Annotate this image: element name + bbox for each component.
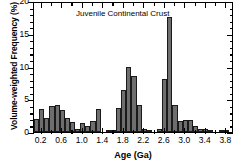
y-tick-minor: [30, 15, 34, 16]
y-tick-label: 0: [7, 127, 29, 137]
x-tick-major-top: [164, 2, 165, 8]
y-tick-minor: [30, 74, 34, 75]
x-tick-minor-top: [51, 2, 52, 6]
y-tick-minor-right: [230, 113, 234, 114]
bar-series: [34, 3, 232, 132]
x-tick-minor: [154, 130, 155, 134]
x-tick-minor: [92, 130, 93, 134]
x-tick-minor-top: [71, 2, 72, 6]
x-tick-major-top: [82, 2, 83, 8]
y-tick-minor-right: [230, 107, 234, 108]
x-tick-minor: [112, 130, 113, 134]
y-tick-minor-right: [230, 54, 234, 55]
y-tick-minor-right: [230, 74, 234, 75]
y-tick-minor: [30, 120, 34, 121]
y-tick-label: 5: [7, 94, 29, 104]
y-tick-minor: [30, 48, 34, 49]
x-tick-minor: [215, 130, 216, 134]
x-tick-minor: [51, 130, 52, 134]
chart-figure: Volume-weighted Frequency (%) Juvenile C…: [0, 0, 239, 168]
y-tick-minor: [30, 61, 34, 62]
plot-area: Juvenile Continental Crust: [33, 2, 233, 133]
y-tick-minor-right: [230, 126, 234, 127]
x-tick-major-top: [41, 2, 42, 8]
chart-title: Juvenile Continental Crust: [76, 9, 169, 18]
x-tick-major-top: [205, 2, 206, 8]
y-tick-minor-right: [230, 94, 234, 95]
y-tick-major-right: [227, 35, 233, 36]
x-axis-title: Age (Ga): [33, 150, 233, 160]
histogram-bar: [96, 109, 101, 132]
x-tick-minor: [195, 130, 196, 134]
x-tick-minor-top: [133, 2, 134, 6]
y-tick-major-right: [227, 68, 233, 69]
y-tick-minor: [30, 41, 34, 42]
y-tick-minor: [30, 113, 34, 114]
x-tick-major: [123, 128, 124, 134]
y-tick-minor-right: [230, 15, 234, 16]
y-tick-label: 15: [7, 29, 29, 39]
x-tick-major: [225, 128, 226, 134]
x-tick-minor-top: [174, 2, 175, 6]
x-tick-major: [143, 128, 144, 134]
y-tick-minor-right: [230, 41, 234, 42]
y-tick-major-right: [227, 133, 233, 134]
x-tick-major-top: [143, 2, 144, 8]
y-tick-label: 10: [7, 62, 29, 72]
x-tick-major: [205, 128, 206, 134]
x-tick-major: [61, 128, 62, 134]
x-tick-major: [41, 128, 42, 134]
x-tick-major: [164, 128, 165, 134]
y-tick-minor: [30, 107, 34, 108]
y-tick-minor-right: [230, 87, 234, 88]
y-tick-minor: [30, 9, 34, 10]
y-tick-minor-right: [230, 120, 234, 121]
y-tick-minor: [30, 126, 34, 127]
x-tick-minor: [133, 130, 134, 134]
x-tick-major-top: [61, 2, 62, 8]
y-tick-minor: [30, 81, 34, 82]
y-tick-minor: [30, 87, 34, 88]
x-tick-major: [184, 128, 185, 134]
x-tick-major-top: [102, 2, 103, 8]
y-tick-minor-right: [230, 61, 234, 62]
y-tick-minor: [30, 22, 34, 23]
x-tick-major-top: [225, 2, 226, 8]
x-tick-minor: [71, 130, 72, 134]
y-tick-minor: [30, 94, 34, 95]
y-tick-minor-right: [230, 81, 234, 82]
x-tick-minor: [174, 130, 175, 134]
x-tick-minor-top: [195, 2, 196, 6]
x-tick-major-top: [184, 2, 185, 8]
x-tick-label: 3.8: [213, 135, 237, 145]
x-tick-minor-top: [112, 2, 113, 6]
x-tick-major: [82, 128, 83, 134]
y-tick-minor-right: [230, 48, 234, 49]
y-tick-minor: [30, 28, 34, 29]
x-tick-major-top: [123, 2, 124, 8]
y-tick-major-right: [227, 100, 233, 101]
histogram-bar: [208, 130, 213, 132]
x-tick-major: [102, 128, 103, 134]
histogram-bar: [147, 130, 152, 132]
x-tick-minor-top: [92, 2, 93, 6]
x-tick-minor-top: [215, 2, 216, 6]
y-tick-minor-right: [230, 22, 234, 23]
y-tick-minor: [30, 54, 34, 55]
y-tick-minor-right: [230, 9, 234, 10]
y-tick-label: 20: [7, 0, 29, 6]
y-tick-minor-right: [230, 28, 234, 29]
y-tick-major-right: [227, 2, 233, 3]
x-tick-minor-top: [154, 2, 155, 6]
